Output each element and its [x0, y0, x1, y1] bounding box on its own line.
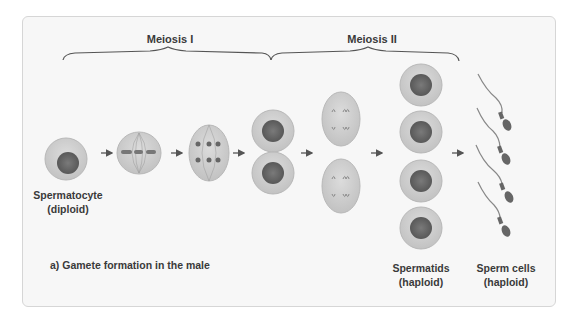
sperm-cell — [478, 74, 513, 132]
meiosis-2-dividing-cells — [322, 92, 360, 213]
sperm-cells-ploidy: (haploid) — [470, 275, 542, 289]
spermatids-label: Spermatids — [386, 261, 456, 275]
sperm-cells-label: Sperm cells — [470, 261, 542, 275]
meiosis-1-brace — [63, 47, 271, 60]
meiosis-2-label: Meiosis II — [337, 32, 407, 46]
spermatocyte-label: Spermatocyte — [28, 188, 108, 202]
sperm-cell — [478, 182, 512, 238]
telophase-1-cells — [252, 110, 294, 194]
spermatocyte-cell — [45, 138, 87, 180]
sperm-cells — [476, 74, 515, 238]
figure-caption: a) Gamete formation in the male — [50, 258, 230, 272]
sperm-cell — [476, 145, 515, 204]
spermatocyte-ploidy: (diploid) — [28, 202, 108, 216]
meiosis-1-label: Meiosis I — [140, 32, 200, 46]
spermatids-ploidy: (haploid) — [386, 275, 456, 289]
spermatid-cells — [400, 64, 442, 249]
meiosis-2-brace — [271, 47, 459, 61]
anaphase-1-cell — [189, 125, 229, 181]
metaphase-1-cell — [117, 132, 161, 174]
